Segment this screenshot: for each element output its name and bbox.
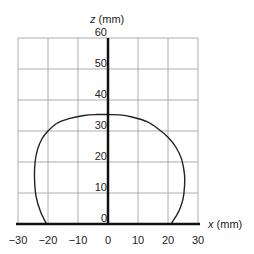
x-tick-label: −30 xyxy=(9,234,28,246)
x-tick-label: −10 xyxy=(69,234,88,246)
x-axis-label: x (mm) xyxy=(207,218,242,230)
y-tick-label: 50 xyxy=(95,57,107,69)
x-tick-labels: −30−20−100102030 xyxy=(9,234,204,246)
x-tick-label: 20 xyxy=(162,234,174,246)
x-tick-label: 10 xyxy=(132,234,144,246)
y-tick-label: 40 xyxy=(95,88,107,100)
y-tick-labels: 0102030405060 xyxy=(95,26,107,224)
x-tick-label: 30 xyxy=(192,234,204,246)
x-tick-label: 0 xyxy=(105,234,111,246)
y-tick-label: 30 xyxy=(95,119,107,131)
y-tick-label: 0 xyxy=(101,212,107,224)
chart: 0102030405060 −30−20−100102030 z (mm) x … xyxy=(0,0,254,254)
y-tick-label: 20 xyxy=(95,150,107,162)
x-tick-label: −20 xyxy=(39,234,58,246)
z-axis-label: z (mm) xyxy=(89,13,124,25)
y-tick-label: 60 xyxy=(95,26,107,38)
y-tick-label: 10 xyxy=(95,181,107,193)
